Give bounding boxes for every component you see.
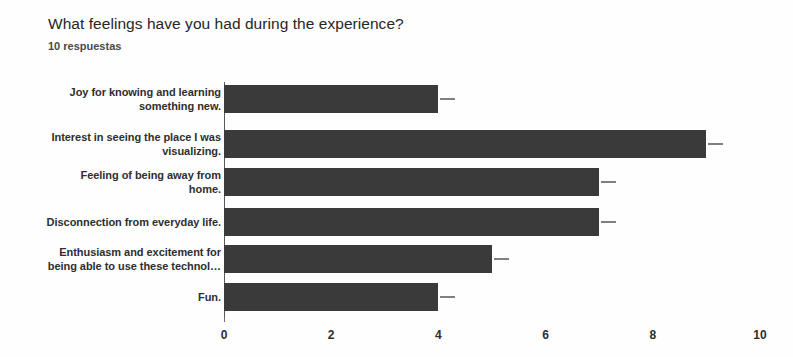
bar-row[interactable] xyxy=(224,245,784,273)
bar-row[interactable] xyxy=(224,130,784,158)
x-axis-tick-label: 6 xyxy=(542,328,549,342)
bar-row[interactable] xyxy=(224,168,784,196)
bar-end-tick xyxy=(708,143,723,145)
bar[interactable] xyxy=(224,168,599,196)
category-label: Disconnection from everyday life. xyxy=(0,215,221,230)
bar[interactable] xyxy=(224,85,438,113)
bar-row[interactable] xyxy=(224,85,784,113)
category-label: Feeling of being away from home. xyxy=(0,168,221,197)
x-axis: 0246810 xyxy=(224,320,784,350)
bar-row[interactable] xyxy=(224,283,784,311)
bar-end-tick xyxy=(440,98,455,100)
bar[interactable] xyxy=(224,245,492,273)
category-axis-labels: Joy for knowing and learning something n… xyxy=(0,78,221,314)
bar[interactable] xyxy=(224,130,706,158)
x-axis-tick-label: 2 xyxy=(328,328,335,342)
page-title: What feelings have you had during the ex… xyxy=(48,14,748,34)
x-axis-tick-label: 0 xyxy=(221,328,228,342)
x-axis-tick-label: 10 xyxy=(753,328,766,342)
category-label: Interest in seeing the place I was visua… xyxy=(0,130,221,159)
bar-series xyxy=(224,78,784,318)
bar[interactable] xyxy=(224,208,599,236)
x-axis-tick-label: 4 xyxy=(435,328,442,342)
bar-end-tick xyxy=(494,258,509,260)
category-label: Enthusiasm and excitement for being able… xyxy=(0,245,221,274)
response-count-label: 10 respuestas xyxy=(48,39,748,54)
bar[interactable] xyxy=(224,283,438,311)
bar-row[interactable] xyxy=(224,208,784,236)
bar-end-tick xyxy=(601,221,616,223)
bar-end-tick xyxy=(601,181,616,183)
chart-header: What feelings have you had during the ex… xyxy=(48,14,748,54)
bar-end-tick xyxy=(440,296,455,298)
x-axis-tick-label: 8 xyxy=(649,328,656,342)
category-label: Fun. xyxy=(0,290,221,305)
chart-screenshot: What feelings have you had during the ex… xyxy=(0,0,793,357)
category-label: Joy for knowing and learning something n… xyxy=(0,85,221,114)
bar-chart-plot: Joy for knowing and learning something n… xyxy=(0,78,793,348)
